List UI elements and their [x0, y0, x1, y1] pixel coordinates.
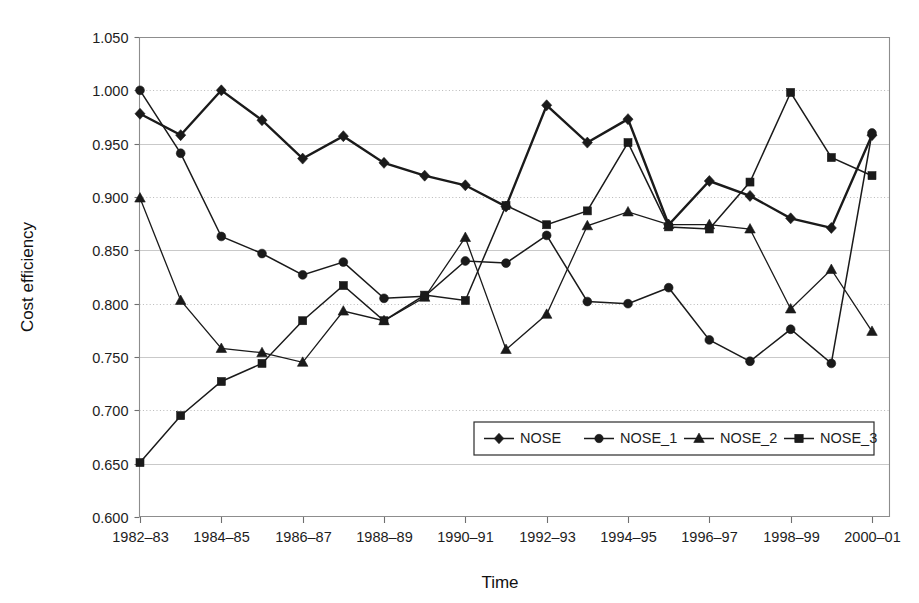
- x-tick-label: 1986–87: [275, 529, 331, 545]
- legend-item-label: NOSE: [520, 430, 561, 446]
- square-marker: [665, 223, 673, 231]
- x-tick-label: 2000–01: [844, 529, 900, 545]
- x-tick-label: 1990–91: [437, 529, 493, 545]
- circle-marker: [705, 336, 714, 345]
- square-marker: [787, 88, 795, 96]
- circle-marker: [380, 294, 389, 303]
- square-marker: [502, 202, 510, 210]
- circle-marker: [258, 249, 267, 258]
- y-tick-label: 0.850: [92, 243, 128, 259]
- cost-efficiency-line-chart: 1.0501.0000.9500.9000.8500.8000.7500.700…: [0, 0, 919, 603]
- square-marker: [380, 317, 388, 325]
- circle-marker: [827, 359, 836, 368]
- square-marker: [746, 178, 754, 186]
- x-tick-label: 1994–95: [600, 529, 656, 545]
- legend-circle-icon: [595, 434, 603, 442]
- circle-marker: [583, 297, 592, 306]
- square-marker: [868, 172, 876, 180]
- circle-marker: [461, 257, 470, 266]
- legend-item-label: NOSE_3: [820, 430, 877, 446]
- chart-screenshot: 1.0501.0000.9500.9000.8500.8000.7500.700…: [0, 0, 919, 603]
- circle-marker: [176, 149, 185, 158]
- x-tick-label: 1982–83: [112, 529, 168, 545]
- y-tick-label: 0.600: [92, 510, 128, 526]
- square-marker: [136, 459, 144, 467]
- y-tick-label: 0.750: [92, 350, 128, 366]
- y-tick-label: 0.650: [92, 457, 128, 473]
- square-marker: [258, 359, 266, 367]
- y-tick-label: 0.900: [92, 190, 128, 206]
- circle-marker: [746, 357, 755, 366]
- circle-marker: [339, 258, 348, 267]
- circle-marker: [868, 129, 877, 138]
- square-marker: [543, 221, 551, 229]
- x-tick-label: 1988–89: [356, 529, 412, 545]
- circle-marker: [502, 259, 511, 268]
- circle-marker: [786, 325, 795, 334]
- circle-marker: [298, 270, 307, 279]
- chart-legend[interactable]: NOSENOSE_1NOSE_2NOSE_3: [474, 422, 877, 455]
- x-tick-label: 1992–93: [519, 529, 575, 545]
- y-axis-title: Cost efficiency: [18, 221, 37, 332]
- circle-marker: [624, 299, 633, 308]
- circle-marker: [136, 86, 145, 95]
- legend-item-label: NOSE_2: [720, 430, 777, 446]
- circle-marker: [217, 232, 226, 241]
- y-tick-label: 0.950: [92, 137, 128, 153]
- y-tick-label: 1.050: [92, 30, 128, 46]
- circle-marker: [542, 231, 551, 240]
- x-tick-label: 1998–99: [763, 529, 819, 545]
- x-tick-label: 1984–85: [193, 529, 249, 545]
- square-marker: [461, 296, 469, 304]
- square-marker: [421, 291, 429, 299]
- square-marker: [624, 139, 632, 147]
- square-marker: [827, 154, 835, 162]
- y-tick-label: 0.800: [92, 297, 128, 313]
- legend-item-label: NOSE_1: [620, 430, 677, 446]
- square-marker: [177, 412, 185, 420]
- square-marker: [339, 282, 347, 290]
- circle-marker: [664, 283, 673, 292]
- x-axis-title: Time: [481, 573, 518, 592]
- y-tick-label: 0.700: [92, 403, 128, 419]
- square-marker: [583, 207, 591, 215]
- square-marker: [299, 317, 307, 325]
- legend-square-icon: [795, 434, 803, 442]
- y-tick-label: 1.000: [92, 83, 128, 99]
- square-marker: [705, 225, 713, 233]
- x-tick-label: 1996–97: [681, 529, 737, 545]
- square-marker: [217, 378, 225, 386]
